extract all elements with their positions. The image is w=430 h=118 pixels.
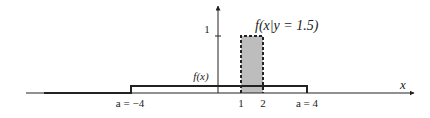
base-density-label: f(x) (193, 70, 209, 83)
x-tick-label-1: 1 (238, 97, 244, 109)
conditional-density-label: f(x|y = 1.5) (255, 18, 319, 34)
x-tick-label-a: a = 4 (296, 97, 319, 109)
density-diagram: 1 f(x|y = 1.5) f(x) x a = −4 1 2 a = 4 (0, 0, 430, 118)
x-axis-label: x (399, 77, 406, 92)
conditional-density-shade (241, 36, 263, 93)
x-tick-label-2: 2 (260, 97, 266, 109)
base-density-outline (44, 86, 307, 93)
x-tick-label-minus-a: a = −4 (116, 97, 145, 109)
y-tick-label: 1 (204, 23, 210, 35)
diagram-svg: 1 f(x|y = 1.5) f(x) x a = −4 1 2 a = 4 (0, 0, 430, 118)
